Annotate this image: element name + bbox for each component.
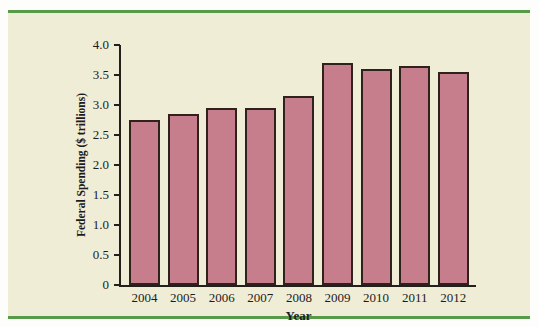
x-tick-label: 2005 [163, 290, 203, 305]
plot-area: Federal Spending ($ trillions) 00.51.01.… [119, 45, 476, 287]
y-tick-mark [114, 254, 120, 256]
y-tick-mark [114, 224, 120, 226]
bar [322, 63, 353, 285]
x-axis-title: Year [121, 308, 476, 324]
y-tick-label: 1.0 [73, 217, 109, 233]
y-tick-label: 2.5 [73, 127, 109, 143]
x-tick-label: 2011 [395, 290, 435, 305]
y-tick-label: 1.5 [73, 187, 109, 203]
bar [245, 108, 276, 285]
x-tick-label: 2009 [318, 290, 358, 305]
figure-panel: Federal Spending ($ trillions) 00.51.01.… [8, 10, 530, 319]
bar [283, 96, 314, 285]
y-tick-label: 0.5 [73, 247, 109, 263]
y-tick-mark [114, 284, 120, 286]
x-tick-label: 2007 [240, 290, 280, 305]
y-tick-mark [114, 74, 120, 76]
y-tick-mark [114, 44, 120, 46]
y-tick-mark [114, 134, 120, 136]
bar [206, 108, 237, 285]
y-tick-mark [114, 104, 120, 106]
y-tick-mark [114, 164, 120, 166]
x-tick-label: 2008 [279, 290, 319, 305]
bar [399, 66, 430, 285]
figure-page: Federal Spending ($ trillions) 00.51.01.… [0, 0, 538, 327]
y-tick-label: 2.0 [73, 157, 109, 173]
y-tick-label: 3.0 [73, 97, 109, 113]
y-tick-mark [114, 194, 120, 196]
x-tick-label: 2012 [433, 290, 473, 305]
bar [129, 120, 160, 285]
bar [361, 69, 392, 285]
bar [168, 114, 199, 285]
x-tick-label: 2010 [356, 290, 396, 305]
y-tick-label: 3.5 [73, 67, 109, 83]
x-tick-label: 2004 [125, 290, 165, 305]
y-tick-label: 4.0 [73, 37, 109, 53]
y-tick-label: 0 [73, 277, 109, 293]
bar [438, 72, 469, 285]
x-tick-label: 2006 [202, 290, 242, 305]
